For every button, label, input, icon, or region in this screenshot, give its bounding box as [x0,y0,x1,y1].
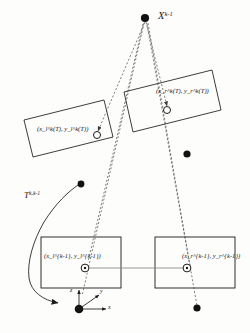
axis-z-label: z [70,287,72,293]
upper-right-image-plane [124,70,221,132]
world-point-marker [141,14,149,22]
axis-x-label: x [108,304,111,310]
axis-y-label: y [100,288,103,294]
feature-dot-bottom-right [193,304,200,311]
transform-arrow [29,185,78,303]
upper-right-projection-circle [164,107,171,114]
transform-label: Tk,k-1 [24,191,40,200]
figure-canvas: Xk-1 (x_l^k(T), y_l^k(T)) (x_r^k(T), y_r… [0,0,250,333]
projection-ray-lines [82,22,197,306]
feature-dot-mid-left [78,181,85,188]
diagram-vector-layer [0,0,250,333]
world-point-label: Xk-1 [158,11,173,22]
upper-left-projection-label: (x_l^k(T), y_l^k(T)) [37,126,88,133]
lower-left-projection-label: (x_l^{k-1}, y_l^{k-1}) [44,253,101,260]
feature-dot-right [183,150,190,157]
upper-left-projection-circle [94,132,101,139]
lower-left-image-plane [41,237,121,288]
upper-right-projection-label: (x_r^k(T), y_r^k(T)) [156,88,209,95]
axis-y-line [79,295,99,309]
lower-right-projection-label: (x_r^{k-1}, y_r^{k-1}) [182,253,240,260]
feature-dots [75,150,201,313]
lower-right-image-plane [155,237,235,288]
